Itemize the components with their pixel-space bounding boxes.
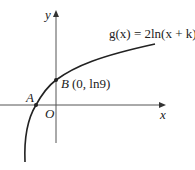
- point-b-marker: [54, 78, 58, 82]
- graph-diagram: g(x) = 2ln(x + k) y x O A B (0, ln9): [0, 0, 195, 170]
- y-axis-arrow-icon: [53, 10, 59, 17]
- x-axis-label: x: [160, 108, 166, 121]
- point-b-coords: (0, ln9): [72, 77, 110, 90]
- function-label: g(x) = 2ln(x + k): [109, 27, 195, 40]
- y-axis-label: y: [45, 8, 51, 21]
- curve-g: [25, 44, 155, 162]
- point-a-marker: [34, 103, 38, 107]
- point-b-label: B: [61, 77, 69, 90]
- point-a-label: A: [26, 91, 34, 104]
- origin-label: O: [45, 107, 54, 120]
